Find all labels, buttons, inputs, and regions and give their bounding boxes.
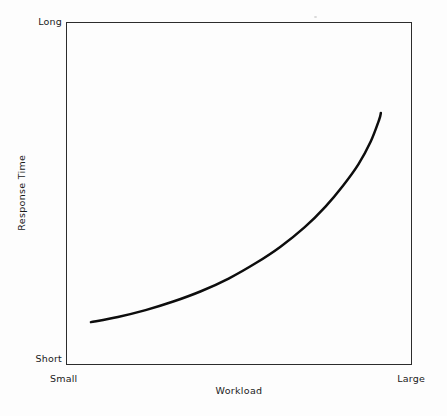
x-axis-tick-label-right: Large [0,374,425,384]
y-axis-tick-label-top: Long [0,17,62,27]
y-axis-title: Response Time [17,133,27,253]
chart-page: Long Short Small Large Response Time Wor… [0,0,447,416]
plot-area-frame [66,22,412,365]
scan-artifact-speck [314,16,317,18]
x-axis-title: Workload [66,386,412,396]
y-axis-tick-label-bottom: Short [0,354,62,364]
